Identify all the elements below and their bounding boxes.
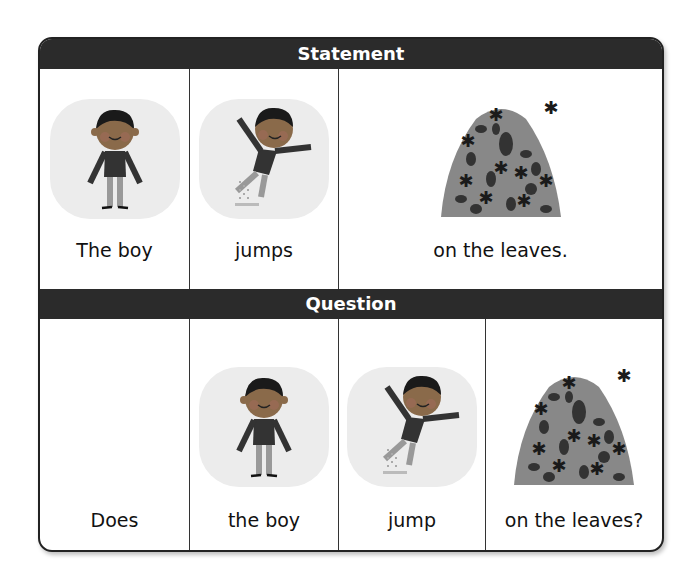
boy-standing-image bbox=[199, 367, 329, 487]
statement-cell-place: on the leaves. bbox=[339, 69, 662, 289]
question-cell-verb: jump bbox=[339, 319, 486, 550]
sentence-table: Statement The boy jumps on the leaves. Q… bbox=[38, 37, 664, 552]
question-word: jump bbox=[339, 509, 485, 531]
question-cell-place: on the leaves? bbox=[486, 319, 662, 550]
statement-header: Statement bbox=[40, 39, 662, 69]
statement-row: The boy jumps on the leaves. bbox=[40, 69, 662, 290]
question-cell-subject: the boy bbox=[190, 319, 339, 550]
question-word: Does bbox=[40, 509, 189, 531]
question-header: Question bbox=[40, 289, 662, 319]
statement-word: The boy bbox=[40, 239, 189, 261]
boy-standing-image bbox=[50, 99, 180, 219]
question-word: on the leaves? bbox=[486, 509, 662, 531]
statement-cell-subject: The boy bbox=[40, 69, 190, 289]
leaf-pile-image bbox=[436, 99, 566, 219]
question-cell-auxiliary: Does bbox=[40, 319, 190, 550]
boy-jumping-image bbox=[347, 367, 477, 487]
question-word: the boy bbox=[190, 509, 338, 531]
statement-cell-verb: jumps bbox=[190, 69, 339, 289]
leaf-pile-image bbox=[509, 367, 639, 487]
question-row: Does the boy jump on the leaves? bbox=[40, 319, 662, 550]
statement-word: on the leaves. bbox=[339, 239, 662, 261]
statement-word: jumps bbox=[190, 239, 338, 261]
boy-jumping-image bbox=[199, 99, 329, 219]
